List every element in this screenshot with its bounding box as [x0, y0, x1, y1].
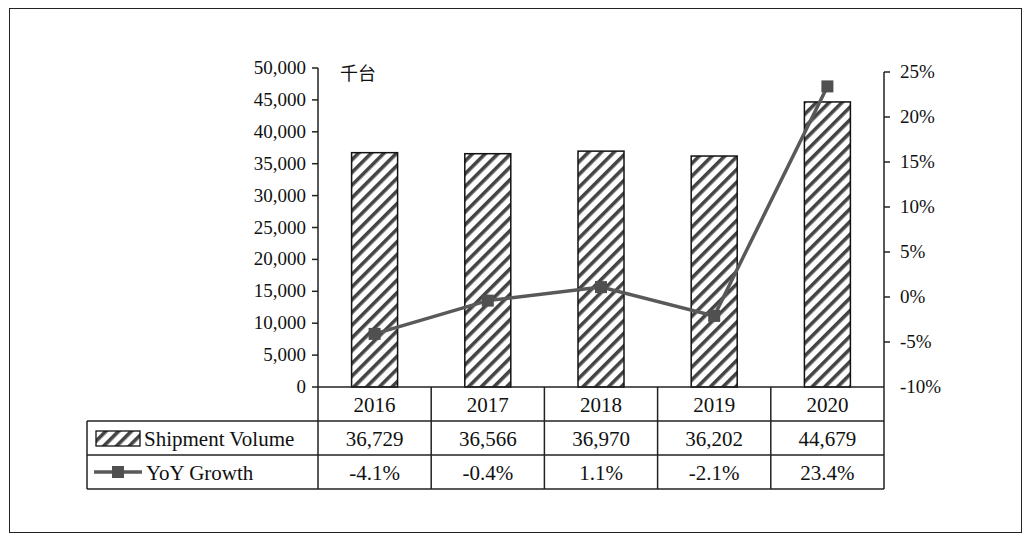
category-label: 2016	[354, 393, 396, 417]
shipment-cell: 36,729	[346, 427, 404, 451]
bar-2018	[578, 151, 624, 387]
right-tick-label: 15%	[900, 151, 935, 172]
category-label: 2017	[467, 393, 509, 417]
right-tick-label: -5%	[900, 331, 932, 352]
right-tick-label: 20%	[900, 106, 935, 127]
right-tick-label: 5%	[900, 241, 926, 262]
shipment-cell: 44,679	[799, 427, 857, 451]
growth-cell: 1.1%	[579, 461, 623, 485]
left-tick-label: 30,000	[254, 185, 306, 206]
shipment-cell: 36,202	[685, 427, 743, 451]
right-tick-label: 25%	[900, 61, 935, 82]
bar-2017	[465, 154, 511, 387]
category-label: 2020	[806, 393, 848, 417]
line-marker-2017	[482, 295, 494, 307]
left-tick-label: 45,000	[254, 89, 306, 110]
left-tick-label: 35,000	[254, 153, 306, 174]
bar-2019	[691, 156, 737, 387]
left-tick-label: 50,000	[254, 57, 306, 78]
line-marker-2016	[369, 328, 381, 340]
legend-yoy-growth: YoY Growth	[146, 461, 254, 485]
growth-cell: -2.1%	[689, 461, 740, 485]
line-marker-2020	[821, 80, 833, 92]
right-y-axis: -10%-5%0%5%10%15%20%25%	[884, 61, 941, 397]
right-tick-label: 10%	[900, 196, 935, 217]
unit-label: 千台	[340, 63, 376, 84]
shipment-cell: 36,970	[572, 427, 630, 451]
right-tick-label: -10%	[900, 376, 941, 397]
left-tick-label: 15,000	[254, 280, 306, 301]
left-tick-label: 40,000	[254, 121, 306, 142]
category-label: 2019	[693, 393, 735, 417]
growth-cell: -0.4%	[462, 461, 513, 485]
line-marker-2018	[595, 281, 607, 293]
left-tick-label: 25,000	[254, 217, 306, 238]
growth-cell: -4.1%	[349, 461, 400, 485]
hatch-legend-icon	[96, 431, 140, 446]
data-table: 201636,729-4.1%201736,566-0.4%201836,970…	[87, 387, 884, 489]
left-y-axis: 05,00010,00015,00020,00025,00030,00035,0…	[254, 57, 318, 397]
left-tick-label: 10,000	[254, 312, 306, 333]
left-tick-label: 20,000	[254, 248, 306, 269]
bar-2016	[352, 153, 398, 387]
shipment-bars	[352, 102, 851, 387]
left-tick-label: 5,000	[263, 344, 306, 365]
line-marker-2019	[708, 310, 720, 322]
shipment-cell: 36,566	[459, 427, 517, 451]
legend-shipment-volume: Shipment Volume	[144, 427, 294, 451]
bar-2020	[804, 102, 850, 387]
combo-chart: 05,00010,00015,00020,00025,00030,00035,0…	[0, 0, 1034, 541]
category-label: 2018	[580, 393, 622, 417]
growth-cell: 23.4%	[800, 461, 854, 485]
right-tick-label: 0%	[900, 286, 926, 307]
square-marker-icon	[112, 466, 124, 478]
left-tick-label: 0	[297, 376, 307, 397]
